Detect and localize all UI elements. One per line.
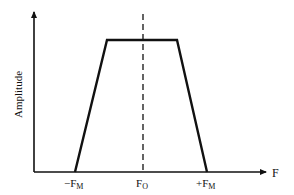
tick-label-pos-fm: +FM: [196, 177, 215, 191]
y-axis-label: Amplitude: [12, 71, 24, 118]
spectrum-trapezoid: [75, 40, 207, 172]
spectrum-diagram: Amplitude F −FM FO +FM: [0, 0, 294, 195]
diagram-canvas: Amplitude F −FM FO +FM: [0, 0, 294, 195]
x-axis-label: F: [272, 166, 279, 180]
tick-label-fo: FO: [136, 177, 148, 191]
tick-label-neg-fm: −FM: [64, 177, 83, 191]
